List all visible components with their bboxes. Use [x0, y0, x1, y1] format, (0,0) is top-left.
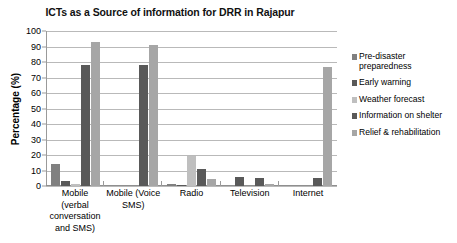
legend-item-label: Information on shelter — [359, 111, 442, 121]
bar — [197, 169, 206, 186]
plot-area: 1009080706050403020100 — [46, 31, 337, 186]
bar — [207, 179, 216, 186]
bar — [235, 177, 244, 186]
legend-swatch-icon — [352, 54, 357, 60]
y-axis-tick-label: 10 — [31, 166, 41, 176]
y-axis-label: Percentage (%) — [8, 31, 22, 186]
y-axis-tick-label: 20 — [31, 150, 41, 160]
y-axis-tick-label: 60 — [31, 88, 41, 98]
bar-groups — [46, 31, 337, 186]
y-axis-tick-label: 40 — [31, 119, 41, 129]
y-axis-tick-label: 100 — [26, 26, 41, 36]
bar — [167, 184, 176, 186]
y-axis-tick-label: 30 — [31, 135, 41, 145]
legend-item[interactable]: Early warning — [352, 78, 456, 88]
legend-item[interactable]: Information on shelter — [352, 111, 456, 121]
bar — [139, 65, 148, 186]
y-axis-tick-label: 80 — [31, 57, 41, 67]
bar — [313, 178, 322, 186]
bar — [81, 65, 90, 186]
legend-item[interactable]: Relief & rehabilitation — [352, 128, 456, 138]
legend-item-label: Early warning — [359, 78, 411, 88]
y-axis-tick-label: 90 — [31, 42, 41, 52]
x-axis-tick-label: Internet — [279, 188, 337, 234]
x-axis-tick-label: Mobile (verbal conversation and SMS) — [46, 188, 104, 234]
legend-swatch-icon — [352, 97, 357, 103]
bar-group — [46, 31, 104, 186]
bar-group — [162, 31, 220, 186]
legend-swatch-icon — [352, 113, 357, 119]
legend-item-label: Weather forecast — [359, 95, 424, 105]
y-axis-tick-label: 50 — [31, 104, 41, 114]
bar — [187, 156, 196, 186]
legend-swatch-icon — [352, 80, 357, 86]
bar — [323, 67, 332, 186]
bar — [149, 45, 158, 186]
bar — [91, 42, 100, 186]
bar — [51, 164, 60, 186]
y-axis-tick-label: 70 — [31, 73, 41, 83]
legend-item[interactable]: Weather forecast — [352, 95, 456, 105]
y-axis-tick-label: 0 — [36, 181, 41, 191]
bar-group — [279, 31, 337, 186]
y-axis-label-text: Percentage (%) — [10, 72, 21, 144]
x-axis-tick-labels: Mobile (verbal conversation and SMS)Mobi… — [46, 188, 337, 234]
chart-legend: Pre-disaster preparednessEarly warningWe… — [352, 52, 456, 145]
chart-title: ICTs as a Source of information for DRR … — [0, 6, 340, 18]
bar — [255, 178, 264, 186]
legend-item[interactable]: Pre-disaster preparedness — [352, 52, 456, 71]
legend-item-label: Pre-disaster preparedness — [359, 52, 456, 71]
x-axis-tick-label: Radio — [162, 188, 220, 234]
bar-group — [221, 31, 279, 186]
legend-item-label: Relief & rehabilitation — [359, 128, 440, 138]
bar — [265, 184, 274, 186]
legend-swatch-icon — [352, 130, 357, 136]
bar-group — [104, 31, 162, 186]
x-axis-tick-label: Television — [221, 188, 279, 234]
bar — [177, 185, 186, 186]
x-axis-tick-label: Mobile (Voice SMS) — [104, 188, 162, 234]
chart-figure: ICTs as a Source of information for DRR … — [0, 0, 457, 243]
gridline — [46, 186, 337, 187]
bar — [61, 181, 70, 186]
bar — [71, 184, 80, 186]
